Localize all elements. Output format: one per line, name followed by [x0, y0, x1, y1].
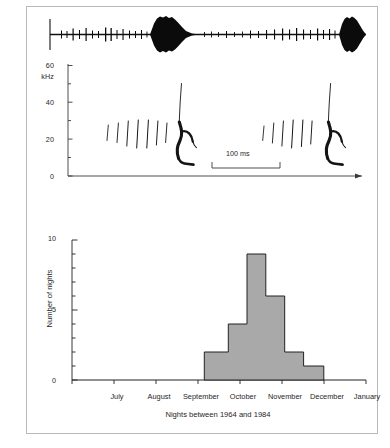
spectrogram-scalebar — [212, 162, 280, 168]
histogram-month-labels: July August September October November D… — [66, 392, 370, 406]
spectrogram-svg — [64, 62, 370, 197]
month-label-october: October — [230, 392, 256, 401]
histogram-panel: 10 5 0 Number of nights — [36, 232, 370, 428]
month-label-november: November — [268, 392, 302, 401]
histogram-x-axis-title: Nights between 1964 and 1984 — [66, 410, 370, 419]
spectrogram-panel: 60 kHz 40 20 0 — [36, 62, 370, 197]
oscillogram-panel — [36, 10, 370, 58]
histogram-y-ticks — [72, 240, 78, 380]
feeding-buzz-2 — [339, 17, 366, 53]
feeding-buzz-1 — [150, 16, 198, 53]
call-group-right-search-pulses — [263, 120, 312, 148]
histogram-svg — [66, 238, 370, 390]
histogram-x-ticks — [72, 380, 366, 384]
month-label-december: December — [310, 392, 344, 401]
spec-ytick-60: 60 — [46, 62, 54, 69]
spectrogram-y-ticks — [68, 66, 73, 177]
histogram-y-axis-title: Number of nights — [45, 250, 54, 348]
histogram-y-axis-labels: 10 5 0 Number of nights — [36, 238, 64, 390]
month-label-january: January — [354, 392, 380, 401]
spectrogram-plot: 100 ms — [64, 62, 370, 197]
scalebar-label: 100 ms — [226, 149, 250, 158]
call-group-right-terminal-call — [326, 84, 345, 165]
spectrogram-time-arrow — [355, 174, 362, 179]
month-label-september: September — [183, 392, 219, 401]
month-label-july: July — [110, 392, 123, 401]
spec-ytick-40: 40 — [46, 99, 54, 106]
spectrogram-y-axis-labels: 60 kHz 40 20 0 — [36, 62, 62, 197]
spec-yaxis-unit: kHz — [41, 73, 54, 80]
call-group-left-terminal-call — [177, 84, 196, 165]
hist-ytick-10: 10 — [48, 235, 56, 242]
oscillogram-svg — [36, 10, 370, 58]
call-group-left-search-pulses — [107, 120, 167, 148]
histogram-bars — [204, 254, 323, 380]
month-label-august: August — [147, 392, 170, 401]
hist-ytick-0: 0 — [52, 377, 56, 384]
spec-ytick-0: 0 — [50, 173, 54, 180]
figure-root: 60 kHz 40 20 0 — [0, 0, 390, 448]
spec-ytick-20: 20 — [46, 136, 54, 143]
histogram-bar-staircase — [204, 254, 323, 380]
histogram-plot — [66, 238, 370, 390]
